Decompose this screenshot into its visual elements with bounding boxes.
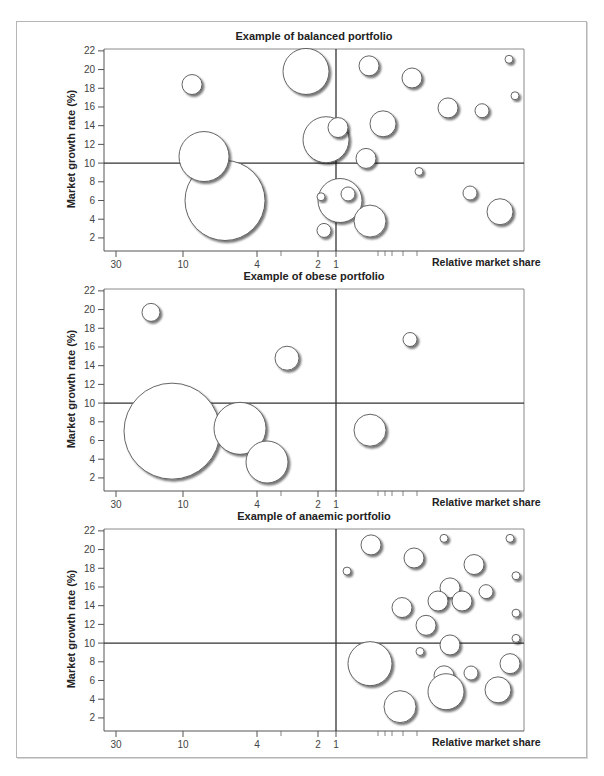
y-tick-label: 22 — [84, 45, 96, 56]
business-unit-bubble — [354, 414, 386, 446]
business-unit-bubble — [506, 534, 514, 542]
business-unit-bubble — [283, 48, 329, 94]
business-unit-bubble — [317, 193, 325, 201]
business-unit-bubble — [341, 187, 355, 201]
y-tick-label: 8 — [89, 416, 95, 427]
business-unit-bubble — [440, 534, 448, 542]
y-tick-label: 20 — [84, 64, 96, 75]
x-tick-label: 10 — [177, 739, 189, 750]
business-unit-bubble — [487, 199, 513, 225]
business-unit-bubble — [416, 648, 424, 656]
business-unit-bubble — [428, 591, 448, 611]
business-unit-bubble — [403, 333, 417, 347]
business-unit-bubble — [179, 132, 229, 182]
y-tick-label: 4 — [89, 214, 95, 225]
business-unit-bubble — [356, 148, 376, 168]
business-unit-bubble — [317, 223, 331, 237]
business-unit-bubble — [438, 98, 458, 118]
business-unit-bubble — [246, 441, 288, 483]
x-tick-label: 2 — [315, 259, 321, 270]
business-unit-bubble — [464, 666, 478, 680]
business-unit-bubble — [440, 635, 460, 655]
business-unit-bubble — [392, 598, 412, 618]
y-tick-label: 20 — [84, 304, 96, 315]
business-unit-bubble — [348, 642, 392, 686]
x-tick-label: 1 — [333, 739, 339, 750]
business-unit-bubble — [370, 111, 396, 137]
y-tick-label: 12 — [84, 379, 96, 390]
x-tick-label: 1 — [333, 259, 339, 270]
business-unit-bubble — [359, 56, 379, 76]
y-tick-label: 4 — [89, 694, 95, 705]
y-tick-label: 18 — [84, 323, 96, 334]
business-unit-bubble — [475, 104, 489, 118]
business-unit-bubble — [505, 55, 513, 63]
y-tick-label: 10 — [84, 158, 96, 169]
business-unit-bubble — [343, 567, 351, 575]
y-tick-label: 20 — [84, 544, 96, 555]
y-tick-label: 6 — [89, 435, 95, 446]
y-tick-label: 14 — [84, 120, 96, 131]
business-unit-bubble — [511, 92, 519, 100]
y-tick-label: 2 — [89, 472, 95, 483]
y-tick-label: 22 — [84, 525, 96, 536]
y-tick-label: 16 — [84, 101, 96, 112]
y-tick-label: 8 — [89, 656, 95, 667]
business-unit-bubble — [275, 346, 299, 370]
bubble-chart: 2220181614121086423010421 — [0, 39, 604, 279]
business-unit-bubble — [452, 591, 472, 611]
business-unit-bubble — [485, 677, 511, 703]
business-unit-bubble — [512, 609, 520, 617]
business-unit-bubble — [404, 548, 424, 568]
x-tick-label: 10 — [177, 259, 189, 270]
x-tick-label: 4 — [254, 739, 260, 750]
y-tick-label: 18 — [84, 563, 96, 574]
business-unit-bubble — [512, 634, 520, 642]
y-tick-label: 18 — [84, 83, 96, 94]
y-tick-label: 16 — [84, 341, 96, 352]
y-tick-label: 14 — [84, 360, 96, 371]
y-tick-label: 2 — [89, 712, 95, 723]
business-unit-bubble — [182, 75, 202, 95]
x-tick-label: 4 — [254, 259, 260, 270]
business-unit-bubble — [416, 615, 436, 635]
y-tick-label: 6 — [89, 675, 95, 686]
y-tick-label: 12 — [84, 619, 96, 630]
x-tick-label: 10 — [177, 499, 189, 510]
business-unit-bubble — [361, 535, 381, 555]
x-tick-label: 1 — [333, 499, 339, 510]
business-unit-bubble — [142, 303, 160, 321]
y-tick-label: 14 — [84, 600, 96, 611]
x-tick-label: 30 — [110, 739, 122, 750]
y-tick-label: 2 — [89, 232, 95, 243]
x-tick-label: 30 — [110, 499, 122, 510]
y-tick-label: 12 — [84, 139, 96, 150]
x-tick-label: 2 — [315, 499, 321, 510]
bubble-chart: 2220181614121086423010421 — [0, 519, 604, 759]
y-tick-label: 22 — [84, 285, 96, 296]
y-tick-label: 4 — [89, 454, 95, 465]
y-tick-label: 16 — [84, 581, 96, 592]
y-tick-label: 8 — [89, 176, 95, 187]
x-tick-label: 2 — [315, 739, 321, 750]
y-tick-label: 6 — [89, 195, 95, 206]
business-unit-bubble — [124, 383, 220, 479]
business-unit-bubble — [328, 118, 348, 138]
business-unit-bubble — [500, 654, 520, 674]
y-tick-label: 10 — [84, 638, 96, 649]
bubble-chart: 2220181614121086423010421 — [0, 279, 604, 519]
business-unit-bubble — [402, 68, 422, 88]
business-unit-bubble — [428, 674, 464, 710]
business-unit-bubble — [415, 168, 423, 176]
x-tick-label: 4 — [254, 499, 260, 510]
business-unit-bubble — [354, 205, 386, 237]
x-tick-label: 30 — [110, 259, 122, 270]
business-unit-bubble — [464, 555, 484, 575]
business-unit-bubble — [463, 186, 477, 200]
business-unit-bubble — [384, 691, 416, 723]
business-unit-bubble — [479, 585, 493, 599]
business-unit-bubble — [512, 572, 520, 580]
y-tick-label: 10 — [84, 398, 96, 409]
